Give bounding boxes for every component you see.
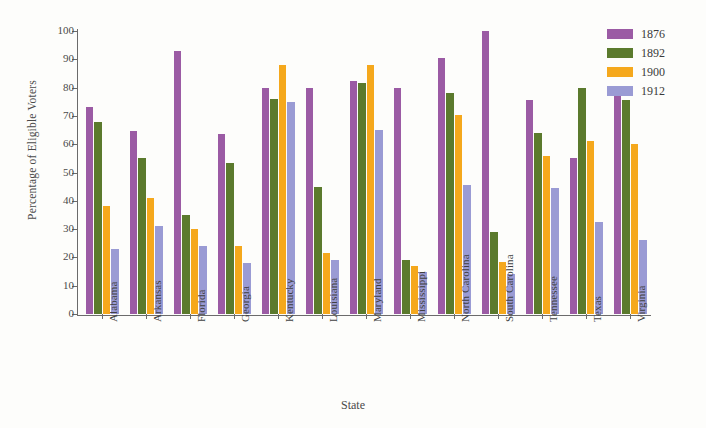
- y-axis-tick-label: 50: [63, 165, 74, 180]
- bar: [306, 88, 314, 314]
- bar: [314, 187, 322, 314]
- x-axis-title: State: [0, 398, 706, 413]
- x-axis-tick-label: Texas: [591, 296, 603, 322]
- bar: [534, 133, 542, 314]
- y-axis-tick-label: 70: [63, 108, 74, 123]
- bar: [622, 100, 630, 314]
- chart-legend: 1876189219001912: [607, 26, 697, 102]
- bar: [490, 232, 498, 314]
- bar-chart-figure: Percentage of Eligible Voters 0102030405…: [0, 0, 706, 428]
- x-axis-tick-label: Tennessee: [547, 276, 559, 322]
- bar: [614, 90, 622, 314]
- plot-area: 0102030405060708090100 AlabamaArkansasFl…: [78, 31, 650, 314]
- legend-item: 1876: [607, 26, 697, 42]
- bar: [350, 81, 358, 314]
- bar-group: [174, 31, 207, 314]
- x-axis-tick-label: Maryland: [371, 278, 383, 322]
- y-axis-tick-label: 100: [58, 23, 75, 38]
- bar: [218, 134, 226, 314]
- x-axis-tick-mark: [278, 314, 279, 319]
- x-axis-tick-mark: [234, 314, 235, 319]
- bar: [526, 100, 534, 314]
- bar-group: [526, 31, 559, 314]
- legend-label: 1912: [641, 84, 665, 99]
- x-axis-tick-mark: [498, 314, 499, 319]
- x-axis-tick-mark: [190, 314, 191, 319]
- x-axis-tick-label: Florida: [195, 290, 207, 322]
- bar: [174, 51, 182, 314]
- bar: [367, 65, 375, 314]
- bar: [570, 158, 578, 314]
- bar: [446, 93, 454, 314]
- bar: [358, 83, 366, 314]
- x-axis-tick-label: South Carolina: [503, 254, 515, 322]
- y-axis-title: Percentage of Eligible Voters: [26, 0, 48, 300]
- legend-color-swatch: [607, 86, 633, 96]
- x-axis-tick-mark: [102, 314, 103, 319]
- x-axis-tick-mark: [630, 314, 631, 319]
- y-axis-tick-label: 80: [63, 80, 74, 95]
- y-axis-tick-label: 60: [63, 136, 74, 151]
- legend-label: 1892: [641, 46, 665, 61]
- bar: [270, 99, 278, 314]
- bar: [182, 215, 190, 314]
- x-axis-tick-label: Louisiana: [327, 278, 339, 322]
- bar-group: [350, 31, 383, 314]
- bar: [130, 131, 138, 314]
- bar: [394, 88, 402, 314]
- x-axis-tick-mark: [322, 314, 323, 319]
- y-axis-tick-label: 0: [69, 306, 75, 321]
- x-axis-tick-label: North Carolina: [459, 254, 471, 322]
- y-axis-tick-label: 10: [63, 278, 74, 293]
- bar: [587, 141, 595, 314]
- x-axis-tick-mark: [410, 314, 411, 319]
- legend-item: 1900: [607, 64, 697, 80]
- bar: [438, 58, 446, 314]
- x-axis-tick-mark: [542, 314, 543, 319]
- x-axis-tick-mark: [366, 314, 367, 319]
- x-axis-tick-label: Alabama: [107, 282, 119, 322]
- x-axis-tick-label: Virginia: [635, 285, 647, 322]
- bar: [94, 122, 102, 314]
- bar: [138, 158, 146, 314]
- legend-item: 1892: [607, 45, 697, 61]
- x-axis-tick-label: Mississippi: [415, 271, 427, 322]
- bar: [482, 31, 490, 314]
- bar: [262, 88, 270, 314]
- bar-group: [570, 31, 603, 314]
- bar: [86, 107, 94, 314]
- bar: [279, 65, 287, 314]
- x-axis-tick-label: Georgia: [239, 286, 251, 322]
- legend-color-swatch: [607, 48, 633, 58]
- x-axis-line: [77, 315, 651, 316]
- bar-group: [86, 31, 119, 314]
- x-axis-tick-label: Arkansas: [151, 280, 163, 322]
- y-axis-tick-label: 30: [63, 221, 74, 236]
- x-axis-tick-mark: [454, 314, 455, 319]
- legend-color-swatch: [607, 67, 633, 77]
- y-axis-tick-label: 20: [63, 249, 74, 264]
- x-axis-tick-mark: [586, 314, 587, 319]
- bar-group: [262, 31, 295, 314]
- x-axis-tick-mark: [146, 314, 147, 319]
- y-axis-tick-label: 90: [63, 51, 74, 66]
- legend-label: 1900: [641, 65, 665, 80]
- bar: [226, 163, 234, 314]
- bar-group: [130, 31, 163, 314]
- bar-group: [218, 31, 251, 314]
- y-axis-tick-label: 40: [63, 193, 74, 208]
- bar: [402, 260, 410, 314]
- legend-item: 1912: [607, 83, 697, 99]
- legend-label: 1876: [641, 27, 665, 42]
- bar: [578, 88, 586, 314]
- x-axis-tick-label: Kentucky: [283, 278, 295, 322]
- bar-group: [306, 31, 339, 314]
- legend-color-swatch: [607, 29, 633, 39]
